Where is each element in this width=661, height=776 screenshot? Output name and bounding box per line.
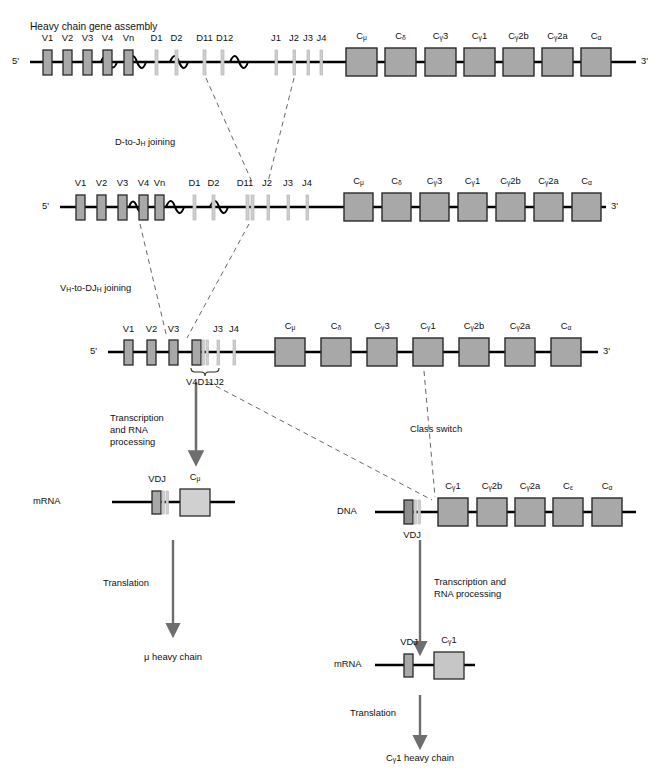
right-mrna-label: mRNA bbox=[334, 659, 362, 668]
heavy-chain-gene-assembly-diagram bbox=[0, 0, 661, 776]
joining-guides-2 bbox=[140, 224, 249, 338]
left-transcription-label: Transcription and RNA processing bbox=[110, 412, 164, 447]
c-gene-segments-row2 bbox=[344, 193, 601, 221]
row2-c-label-3: Cγ1 bbox=[465, 176, 480, 187]
left-translation-label: Translation bbox=[103, 578, 149, 587]
right-c-label-1: Cγ2b bbox=[482, 481, 503, 492]
row3-v-label-0: V1 bbox=[123, 324, 134, 333]
row3-c-label-1: Cδ bbox=[331, 321, 342, 332]
right-transcription-label: Transcription and RNA processing bbox=[434, 576, 506, 600]
step1-pre: D-to-J bbox=[115, 136, 141, 147]
class-switch-label: Class switch bbox=[410, 424, 462, 433]
row2-d-label-0: D1 bbox=[189, 178, 201, 187]
row3-three-prime: 3' bbox=[603, 346, 610, 355]
right-c-label-3: Cε bbox=[563, 481, 573, 492]
row1-v-label-0: V1 bbox=[42, 33, 53, 42]
row2-c-label-7: Cα bbox=[581, 176, 592, 187]
row2-j-label-0: J2 bbox=[262, 178, 272, 187]
row1-three-prime: 3' bbox=[641, 56, 648, 65]
right-c-label-4: Cα bbox=[602, 481, 613, 492]
right-vdj-label: VDJ bbox=[403, 530, 421, 539]
left-product-label: μ heavy chain bbox=[144, 652, 202, 661]
right-c-label-0: Cγ1 bbox=[445, 481, 460, 492]
v-gene-segments-row3 bbox=[124, 340, 178, 365]
right-c-label-2: Cγ2a bbox=[520, 481, 541, 492]
row1-c-label-0: Cμ bbox=[356, 31, 367, 42]
row1-c-label-2: Cγ3 bbox=[433, 31, 448, 42]
row3-c-label-7: Cα bbox=[561, 321, 572, 332]
row1-c-label-1: Cδ bbox=[395, 31, 406, 42]
step-label-v-to-dj-joining: VH-to-DJH joining bbox=[60, 283, 131, 294]
row2-v-label-2: V3 bbox=[117, 178, 128, 187]
row2-d-label-1: D2 bbox=[208, 178, 220, 187]
row3-c-label-2: Cγ3 bbox=[374, 321, 389, 332]
step-label-d-to-j-joining: D-to-JH joining bbox=[115, 137, 175, 148]
joining-guides-1 bbox=[206, 78, 294, 182]
left-vdj-label: VDJ bbox=[148, 474, 166, 483]
row1-v-label-4: Vn bbox=[123, 33, 134, 42]
row1-v-label-2: V3 bbox=[82, 33, 93, 42]
row3-v-label-2: V3 bbox=[168, 324, 179, 333]
row2-c-label-5: Cγ2a bbox=[538, 176, 559, 187]
row2-j-label-2: J4 bbox=[302, 178, 312, 187]
row1-v-label-1: V2 bbox=[62, 33, 73, 42]
row3-j-label-1: J4 bbox=[229, 324, 239, 333]
c-gene-segments-row1 bbox=[346, 48, 611, 76]
row1-j-label-0: J1 bbox=[271, 33, 281, 42]
row3-v-label-1: V2 bbox=[146, 324, 157, 333]
c-gene-segments-row3 bbox=[275, 338, 581, 366]
row1-c-label-3: Cγ1 bbox=[472, 31, 487, 42]
row2-v-label-0: V1 bbox=[75, 178, 86, 187]
row1-c-label-4: Cγ2b bbox=[508, 31, 529, 42]
row1-d-label-2: D11 bbox=[196, 33, 213, 42]
row2-five-prime: 5' bbox=[42, 201, 49, 210]
row2-c-label-4: Cγ2b bbox=[500, 176, 521, 187]
right-mrna-c-label: Cγ1 bbox=[441, 635, 456, 646]
row2-v-label-3: V4 bbox=[138, 178, 149, 187]
row2-d-label-2: D11 bbox=[237, 178, 254, 187]
row3-five-prime: 5' bbox=[90, 346, 97, 355]
right-mrna-vdj-label: VDJ bbox=[400, 637, 418, 646]
row3-vdj-locus bbox=[108, 338, 598, 376]
row1-j-label-3: J4 bbox=[317, 33, 327, 42]
rearranged-vdj-segment bbox=[191, 340, 219, 376]
row3-c-label-5: Cγ2a bbox=[510, 321, 531, 332]
step2-post: joining bbox=[102, 282, 132, 293]
right-translation-label: Translation bbox=[350, 708, 396, 717]
step1-post: joining bbox=[145, 136, 175, 147]
figure-title: Heavy chain gene assembly bbox=[30, 22, 157, 32]
row1-d-label-0: D1 bbox=[151, 33, 163, 42]
row2-c-label-2: Cγ3 bbox=[427, 176, 442, 187]
left-c-label: Cμ bbox=[190, 472, 201, 483]
right-dna-row bbox=[375, 498, 636, 526]
row1-j-label-2: J3 bbox=[303, 33, 313, 42]
row2-v-label-1: V2 bbox=[96, 178, 107, 187]
row1-germline-locus bbox=[30, 48, 636, 76]
class-switch-guides bbox=[208, 371, 435, 500]
row2-c-label-0: Cμ bbox=[353, 176, 364, 187]
row3-c-label-3: Cγ1 bbox=[420, 321, 435, 332]
row3-c-label-4: Cγ2b bbox=[464, 321, 485, 332]
row2-three-prime: 3' bbox=[611, 201, 618, 210]
row1-j-label-1: J2 bbox=[289, 33, 299, 42]
row2-j-label-1: J3 bbox=[283, 178, 293, 187]
row1-v-label-3: V4 bbox=[102, 33, 113, 42]
left-mrna-label: mRNA bbox=[33, 496, 61, 505]
row3-rearranged-label: V4D11J2 bbox=[186, 377, 224, 386]
row1-five-prime: 5' bbox=[12, 56, 19, 65]
step2-mid: -to-DJ bbox=[71, 282, 97, 293]
row1-d-label-1: D2 bbox=[171, 33, 183, 42]
right-mrna-row bbox=[375, 652, 475, 679]
row2-c-label-1: Cδ bbox=[391, 176, 402, 187]
row2-d-to-j-locus bbox=[60, 193, 606, 221]
row1-c-label-7: Cα bbox=[591, 31, 602, 42]
row1-c-label-5: Cγ2a bbox=[547, 31, 568, 42]
right-dna-label: DNA bbox=[337, 506, 357, 515]
left-mrna-row bbox=[112, 489, 235, 516]
row2-v-label-4: Vn bbox=[154, 178, 165, 187]
row3-c-label-0: Cμ bbox=[285, 321, 296, 332]
row1-d-label-3: D12 bbox=[216, 33, 233, 42]
row3-j-label-0: J3 bbox=[213, 324, 223, 333]
right-product-label: Cγ1 heavy chain bbox=[386, 753, 454, 764]
